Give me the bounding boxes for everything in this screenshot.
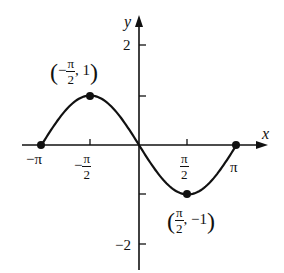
x-tick-label-neg-pi-half: −π2 [74, 152, 91, 181]
x-tick-label-pi: π [230, 160, 238, 175]
minus-sign: − [74, 157, 82, 173]
open-paren: ( [167, 208, 175, 234]
open-paren: ( [50, 59, 58, 85]
y-axis-label: y [124, 14, 131, 30]
x-axis-label: x [262, 126, 269, 142]
point-pi [232, 141, 240, 149]
denominator: 2 [181, 167, 188, 181]
x-tick-label-pi-half: π2 [180, 152, 189, 181]
fraction: π2 [175, 206, 184, 235]
denominator: 2 [68, 72, 75, 86]
numerator: π [66, 57, 75, 72]
close-paren: ) [207, 208, 215, 234]
y-tick-label-2: 2 [123, 38, 131, 53]
y-axis-arrow-icon [135, 15, 143, 27]
y-tick-label-neg2: −2 [115, 238, 131, 253]
point-neg-pi [37, 141, 45, 149]
x-axis-arrow-icon [256, 141, 268, 149]
annotation-max-point: (−π2, 1) [50, 57, 98, 86]
point-max [86, 92, 94, 100]
fraction: π2 [180, 152, 189, 181]
point-min [183, 190, 191, 198]
point-y-value: 1 [83, 62, 91, 78]
minus-sign: − [58, 62, 66, 78]
x-tick-label-neg-pi: −π [26, 152, 42, 167]
comma: , [75, 62, 79, 78]
annotation-min-point: (π2, −1) [167, 206, 215, 235]
numerator: π [180, 152, 189, 167]
numerator: π [82, 152, 91, 167]
numerator: π [175, 206, 184, 221]
denominator: 2 [176, 221, 183, 235]
comma: , [184, 211, 188, 227]
fraction: π2 [82, 152, 91, 181]
fraction: π2 [66, 57, 75, 86]
point-y-value: −1 [191, 211, 207, 227]
denominator: 2 [84, 167, 91, 181]
chart-canvas [0, 0, 284, 273]
close-paren: ) [90, 59, 98, 85]
